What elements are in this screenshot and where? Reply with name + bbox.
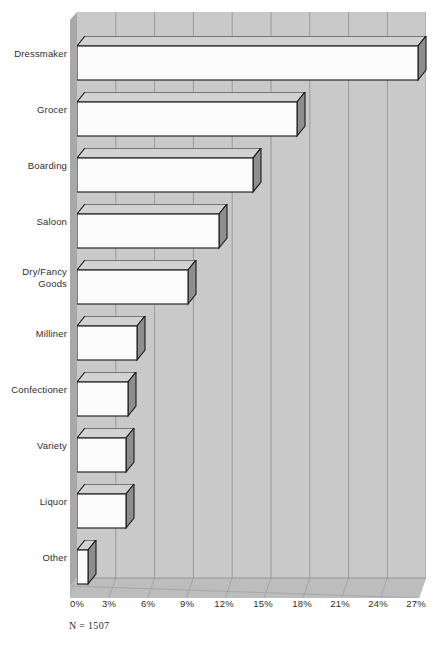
category-label-variety: Variety <box>0 440 67 452</box>
xtick-9: 9% <box>167 598 207 609</box>
xtick-21: 21% <box>320 598 360 609</box>
category-label-milliner: Milliner <box>0 328 67 340</box>
bar-variety <box>77 428 162 480</box>
xtick-15: 15% <box>243 598 283 609</box>
plot-area <box>70 12 426 590</box>
category-label-boarding: Boarding <box>0 160 67 172</box>
bar-confectioner <box>77 372 162 424</box>
category-label-grocer: Grocer <box>0 104 67 116</box>
category-label-other: Other <box>0 552 67 564</box>
bar-other <box>77 540 117 592</box>
category-label-dry-fancy-goods: Dry/Fancy Goods <box>0 266 67 289</box>
bar-liquor <box>77 484 162 536</box>
xtick-27: 27% <box>396 598 436 609</box>
xtick-24: 24% <box>358 598 398 609</box>
xtick-12: 12% <box>204 598 244 609</box>
category-label-confectioner: Confectioner <box>0 384 67 396</box>
category-label-saloon: Saloon <box>0 216 67 228</box>
bar-dry-fancy-goods <box>77 260 217 312</box>
bar-chart: Dressmaker Grocer Boarding Saloon Dry/Fa… <box>0 0 442 658</box>
bar-grocer <box>77 92 317 144</box>
category-label-liquor: Liquor <box>0 496 67 508</box>
xtick-3: 3% <box>89 598 129 609</box>
xtick-18: 18% <box>282 598 322 609</box>
bar-milliner <box>77 316 167 368</box>
bar-boarding <box>77 148 277 200</box>
sample-size-note: N = 1507 <box>69 620 109 631</box>
bar-saloon <box>77 204 247 256</box>
bar-dressmaker <box>77 36 433 88</box>
category-label-dressmaker: Dressmaker <box>0 48 67 60</box>
xtick-6: 6% <box>128 598 168 609</box>
